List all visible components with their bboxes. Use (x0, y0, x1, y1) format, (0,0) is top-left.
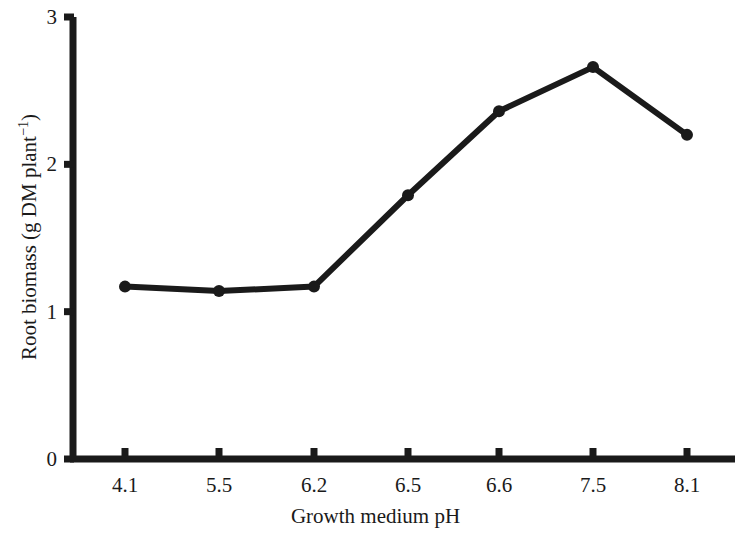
y-axis-title-tail: ) (17, 114, 41, 121)
x-axis-title: Growth medium pH (0, 504, 751, 529)
chart-figure: 0123 4.15.56.26.56.67.58.1 Growth medium… (0, 0, 751, 540)
line-chart-canvas (0, 0, 751, 540)
x-axis-tick-label: 8.1 (674, 475, 700, 496)
series-markers-root-biomass (119, 61, 693, 297)
data-point-marker (119, 281, 131, 293)
y-axis-tick-label: 0 (47, 449, 58, 470)
x-axis-tick-label: 5.5 (206, 475, 232, 496)
data-point-marker (587, 61, 599, 73)
data-series-group (119, 61, 693, 297)
x-axis-tick-label: 7.5 (580, 475, 606, 496)
y-axis-tick-label: 2 (47, 154, 58, 175)
axes-group (64, 17, 735, 460)
x-axis-tick-label: 4.1 (112, 475, 138, 496)
y-axis-title-base: Root biomass (g DM plant (17, 136, 41, 360)
x-axis-tick-label: 6.5 (395, 475, 421, 496)
data-point-marker (681, 129, 693, 141)
data-point-marker (493, 105, 505, 117)
data-point-marker (402, 189, 414, 201)
y-axis-tick-label: 3 (47, 7, 58, 28)
series-line-root-biomass (125, 67, 687, 291)
y-axis-title-exponent: −1 (15, 121, 31, 136)
data-point-marker (213, 285, 225, 297)
x-axis-tick-label: 6.2 (301, 475, 327, 496)
y-axis-tick-label: 1 (47, 301, 58, 322)
y-axis-title: Root biomass (g DM plant−1) (14, 2, 44, 472)
x-axis-tick-label: 6.6 (486, 475, 512, 496)
data-point-marker (308, 281, 320, 293)
